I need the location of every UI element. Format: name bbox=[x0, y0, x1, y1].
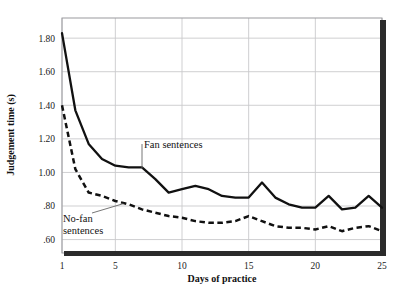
y-axis-tick-labels: 1.801.601.401.201.00.80.60 bbox=[38, 34, 55, 245]
fan-annotation-label: Fan sentences bbox=[144, 139, 203, 150]
x-axis-tick-label: 10 bbox=[177, 261, 187, 271]
x-axis-tick-label: 1 bbox=[60, 261, 65, 271]
y-axis-title: Judgement time (s) bbox=[5, 94, 17, 176]
y-axis-tick-label: 1.20 bbox=[38, 134, 55, 144]
x-axis-tick-label: 20 bbox=[311, 261, 321, 271]
x-axis-tick-label: 15 bbox=[244, 261, 254, 271]
y-axis-tick-label: 1.40 bbox=[38, 101, 55, 111]
x-axis-tick-labels: 1510152025 bbox=[60, 261, 387, 271]
plot-area-background bbox=[62, 18, 382, 253]
nofan-annotation-label-line2: sentences bbox=[63, 225, 103, 236]
x-axis-tick-label: 25 bbox=[377, 261, 387, 271]
y-axis-tick-label: 1.00 bbox=[38, 168, 55, 178]
y-axis-tick-label: .60 bbox=[43, 235, 55, 245]
chart-figure: 1.801.601.401.201.00.80.60 1510152025 Ju… bbox=[0, 0, 395, 298]
x-axis-tick-label: 5 bbox=[113, 261, 118, 271]
frame-shadow-right bbox=[380, 20, 386, 255]
frame-shadow-bottom bbox=[64, 251, 386, 256]
y-axis-tick-label: 1.60 bbox=[38, 67, 55, 77]
y-axis-tick-label: .80 bbox=[43, 201, 55, 211]
y-axis-tick-label: 1.80 bbox=[38, 34, 55, 44]
nofan-annotation-label-line1: No-fan bbox=[63, 213, 93, 224]
line-chart: 1.801.601.401.201.00.80.60 1510152025 Ju… bbox=[0, 0, 395, 298]
x-axis-title: Days of practice bbox=[188, 273, 257, 284]
